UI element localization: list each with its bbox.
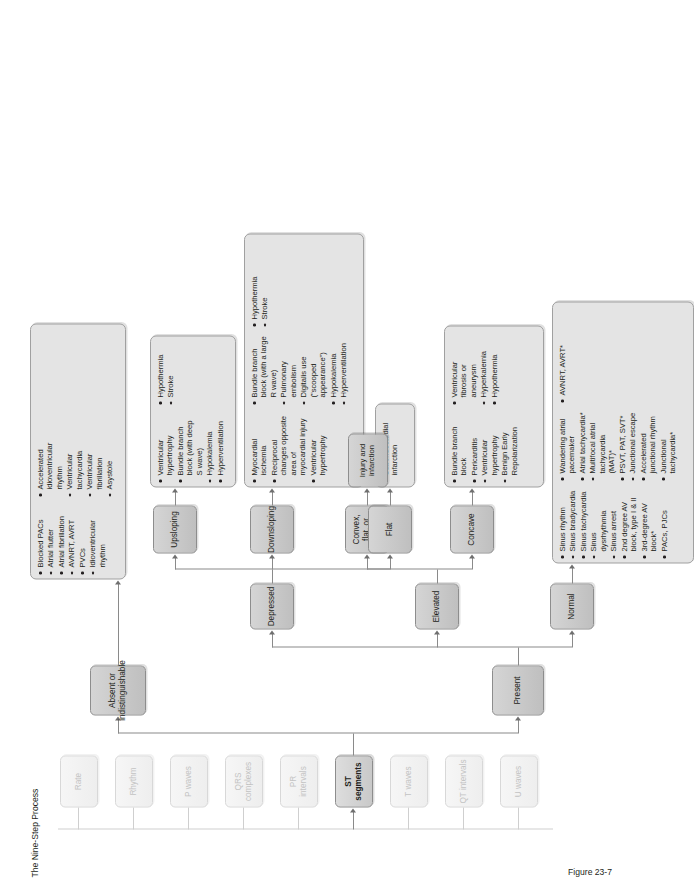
list-concave: Bundle branch blockPericarditisVentricul… [444,325,544,487]
node-present[interactable]: Present [492,665,544,715]
list-item: Hyperventilation [216,413,225,482]
sidebar-item-pr-intervals[interactable]: PR intervals [280,755,318,807]
list-item: Ventricular tachycardia [65,427,84,496]
list-item: Hypothermia [156,354,165,404]
list-downsloping: Myocardial ischemiaReciprocal changes op… [244,233,364,487]
spine-stub [188,807,189,829]
st-split [118,732,518,733]
list-item: Ventricular hypertrophy [156,413,175,482]
node-downsloping[interactable]: Downsloping [250,505,294,553]
list-item: AVNRT, AVRT* [558,345,567,403]
list-item: PSVT, PAT, SVT* [618,411,627,480]
list-item: Sinus rhythm [558,489,567,558]
flat-to-list [390,491,391,505]
list-item: PVCs [78,505,87,574]
list-items: Ventricular hypertrophyBundle branch blo… [156,342,230,482]
sidebar-item-qt-intervals[interactable]: QT intervals [445,755,483,807]
list-item: Ventricular hypertrophy [309,413,328,482]
upsloping-to-list [175,491,176,505]
to-normal [572,633,573,647]
absent-to-list [118,583,119,665]
node-normal[interactable]: Normal [550,583,594,629]
sidebar-item-u-waves[interactable]: U waves [500,755,538,807]
to-present [518,719,519,733]
sidebar-item-rhythm[interactable]: Rhythm [115,755,153,807]
list-item: PACs, PJCs [660,489,669,558]
list-item: Accelerated idioventricular rhythm [36,427,64,496]
list-item: Pericarditis [470,413,479,482]
to-convex-arrow [364,554,370,558]
list-item: Stroke [166,354,175,404]
to-convex [367,557,368,569]
spine-stub [78,807,79,829]
node-depressed[interactable]: Depressed [250,583,294,629]
node-concave[interactable]: Concave [450,505,494,553]
normal-to-list-arrow [569,564,575,568]
list-item: 2nd degree AV block, type I & II [620,489,639,558]
to-normal-arrow [569,630,575,634]
to-flat-arrow [387,554,393,558]
convex-to-list [367,491,368,505]
node-elevated[interactable]: Elevated [415,583,459,629]
list-item: Junctional tachycardia* [659,411,678,480]
list-item: Blocked PACs [36,505,45,574]
sidebar-item-rate[interactable]: Rate [60,755,98,807]
list-item: Stroke [260,276,269,326]
list-item: AVNRT, AVRT [67,505,76,574]
list-absent-or-indistinguishable: Blocked PACsAtrial flutterAtrial fibrill… [30,323,126,579]
list-item: Sinus dysrhythmia [589,489,608,558]
to-upsloping-arrow [172,554,178,558]
to-flat [390,557,391,569]
to-concave [472,557,473,569]
spine-stub [133,807,134,829]
list-item: Hyperventilation [339,335,348,404]
figure-caption: Figure 23-7 [568,867,612,877]
concave-to-list-arrow [469,488,475,492]
list-item: Bundle branch block [450,413,469,482]
list-normal: Sinus rhythmSinus bradycardiaSinus tachy… [552,301,694,563]
node-absent-or-indistinguishable[interactable]: Absent or indistinguishable [90,665,146,715]
list-item: Digitalis use ("scooped appearance") [299,335,327,404]
list-item: Benign Early Repolarization [500,413,519,482]
convex-to-list-arrow [364,488,370,492]
list-item: Atrial tachycardia* [578,411,587,480]
sidebar-item-st-segments[interactable]: ST segments [335,755,373,807]
present-split [272,646,572,647]
to-elevated-arrow [434,630,440,634]
spine-stub [518,807,519,829]
to-absent [118,719,119,733]
list-items: Myocardial ischemiaReciprocal changes op… [250,240,358,482]
spine-stub [298,807,299,829]
to-elevated [437,633,438,647]
to-downsloping [272,557,273,569]
node-flat[interactable]: Flat [368,505,412,553]
list-item: Asystole [105,427,114,496]
list-item: Atrial fibrillation [57,505,66,574]
present-out [518,647,519,665]
spine-stub [243,807,244,829]
flat-to-list-arrow [387,488,393,492]
list-item: Sinus arrest [609,489,618,558]
list-upsloping: Ventricular hypertrophyBundle branch blo… [150,335,236,487]
elevated-out [437,569,438,583]
list-item: Ventricular fibrosis or aneurysm [450,335,478,404]
upsloping-to-list-arrow [172,488,178,492]
figure-title: The Nine-Step Process [30,788,40,877]
depressed-split [175,568,390,569]
to-depressed [272,633,273,647]
spine-arrow-active [350,808,356,812]
absent-to-list-arrow [115,580,121,584]
node-upsloping[interactable]: Upsloping [153,505,197,553]
list-item: Hypokalemia [329,335,338,404]
spine-stub [463,807,464,829]
concave-to-list [472,491,473,505]
spine-stub [408,807,409,829]
list-item: Hypokalemia [205,413,214,482]
sidebar-item-qrs-complexes[interactable]: QRS complexes [225,755,263,807]
sidebar-item-t-waves[interactable]: T waves [390,755,428,807]
list-items: Bundle branch blockPericarditisVentricul… [450,332,538,482]
to-depressed-arrow [269,630,275,634]
sidebar-item-p-waves[interactable]: P waves [170,755,208,807]
st-out [353,733,354,755]
list-item: Multifocal atrial tachycardia (MAT)* [588,411,616,480]
